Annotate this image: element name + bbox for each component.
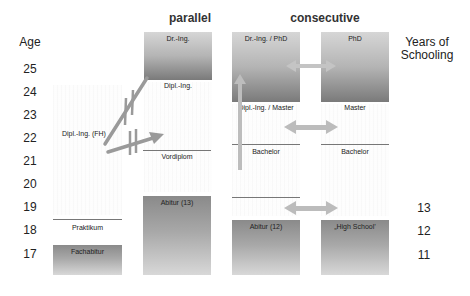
equivalence-arrow-master (284, 120, 338, 134)
barrier-mark-icon (125, 98, 126, 125)
equivalence-arrow-phd (286, 60, 336, 72)
arrow-head-icon (234, 74, 246, 84)
arrows-overlay (0, 0, 470, 296)
barrier-mark-icon (132, 90, 133, 115)
equivalence-arrow-school (284, 201, 338, 215)
